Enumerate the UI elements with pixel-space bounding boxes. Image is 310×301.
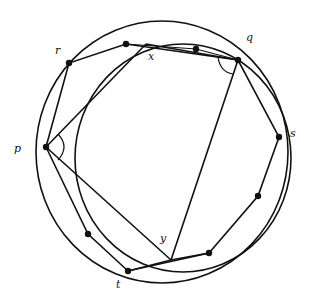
segment-p-x <box>46 44 146 147</box>
segment-y-dot <box>171 253 209 260</box>
geometry-diagram: r x q p s y t <box>0 0 310 301</box>
segment-p-y <box>46 147 171 260</box>
label-r: r <box>55 44 61 57</box>
label-q: q <box>246 31 253 44</box>
label-p: p <box>14 142 21 155</box>
label-t: t <box>116 278 121 291</box>
label-y: y <box>159 232 167 245</box>
inner-circle <box>75 44 291 272</box>
label-x: x <box>148 50 155 63</box>
angle-mark-p <box>58 134 64 160</box>
label-s: s <box>290 127 296 140</box>
diagram-canvas: r x q p s y t <box>0 0 310 301</box>
segment-t-y <box>128 260 171 271</box>
